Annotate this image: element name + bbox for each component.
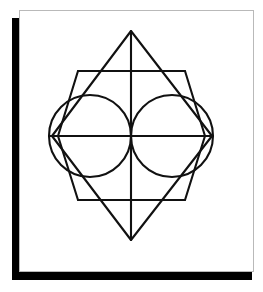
geometric-figure xyxy=(19,10,254,272)
figure-canvas xyxy=(0,0,263,292)
